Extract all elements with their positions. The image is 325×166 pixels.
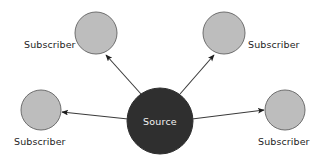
arrow-source-to-top-left [106, 55, 141, 94]
diagram-canvas: SubscriberSubscriberSubscriberSubscriber… [0, 0, 325, 166]
subscriber-label-bottom-right: Subscriber [258, 136, 310, 147]
subscriber-node-bottom-left[interactable] [21, 90, 61, 130]
arrow-source-to-bottom-right [192, 110, 264, 119]
subscriber-node-top-right[interactable] [203, 12, 245, 54]
arrow-source-to-bottom-left [62, 112, 128, 119]
arrow-source-to-top-right [180, 55, 214, 94]
subscriber-node-top-left[interactable] [75, 12, 117, 54]
subscriber-label-top-right: Subscriber [248, 39, 300, 50]
subscriber-label-bottom-left: Subscriber [14, 136, 66, 147]
source-label: Source [143, 116, 177, 127]
pubsub-diagram: SubscriberSubscriberSubscriberSubscriber… [0, 0, 325, 166]
subscriber-label-top-left: Subscriber [24, 39, 76, 50]
nodes-group: SubscriberSubscriberSubscriberSubscriber… [14, 12, 310, 154]
subscriber-node-bottom-right[interactable] [265, 90, 305, 130]
